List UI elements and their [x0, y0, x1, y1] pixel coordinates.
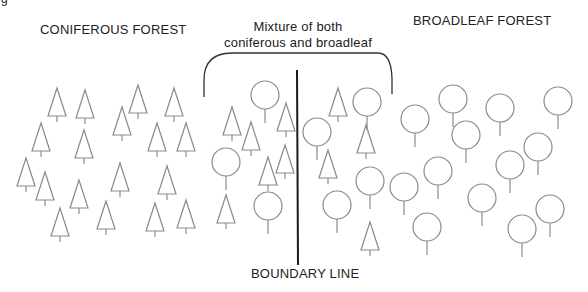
conifer-tree-icon — [113, 107, 131, 141]
conifer-tree-icon — [177, 123, 195, 157]
conifer-tree-icon — [17, 158, 35, 192]
broadleaf-tree-icon — [468, 184, 496, 226]
broadleaf-tree-icon — [452, 121, 480, 163]
broadleaf-tree-icon — [356, 167, 384, 209]
boundary-line — [297, 70, 298, 265]
conifer-tree-icon — [70, 180, 88, 214]
broadleaf-tree-icon — [323, 191, 351, 233]
broadleaf-tree-icon — [212, 148, 240, 190]
broadleaf-tree-icon — [401, 105, 429, 147]
tree-illustration — [0, 0, 588, 292]
conifer-tree-icon — [51, 208, 69, 242]
conifer-tree-icon — [148, 123, 166, 157]
conifer-tree-icon — [158, 166, 176, 200]
conifer-tree-icon — [36, 172, 54, 206]
conifer-tree-icon — [277, 103, 295, 137]
conifer-tree-icon — [32, 123, 50, 157]
conifer-tree-icon — [361, 222, 379, 256]
broadleaf-tree-icon — [251, 81, 279, 123]
conifer-tree-icon — [319, 150, 337, 184]
conifer-tree-icon — [129, 85, 147, 119]
forest-boundary-diagram: g CONIFEROUS FOREST BROADLEAF FOREST Mix… — [0, 0, 588, 292]
conifer-tree-icon — [165, 88, 183, 122]
conifer-tree-icon — [48, 88, 66, 122]
conifer-tree-icon — [223, 107, 241, 141]
broadleaf-tree-icon — [353, 88, 381, 130]
conifer-tree-icon — [76, 90, 94, 124]
conifer-tree-icon — [146, 203, 164, 237]
conifer-tree-icon — [97, 201, 115, 235]
broadleaf-tree-icon — [413, 213, 441, 255]
conifer-tree-icon — [75, 130, 93, 164]
broadleaf-tree-icon — [390, 173, 418, 215]
conifer-tree-icon — [217, 195, 235, 229]
conifer-tree-icon — [177, 200, 195, 234]
conifer-tree-icon — [357, 125, 375, 159]
broadleaf-tree-icon — [486, 94, 514, 136]
conifer-tree-icon — [329, 88, 347, 122]
broadleaf-tree-icon — [254, 192, 282, 234]
conifer-tree-icon — [276, 145, 294, 179]
broadleaf-tree-icon — [424, 157, 452, 199]
broadleaf-tree-icon — [524, 133, 552, 175]
conifer-tree-icon — [111, 163, 129, 197]
broadleaf-tree-icon — [536, 195, 564, 237]
broadleaf-tree-icon — [544, 87, 572, 129]
conifer-tree-icon — [259, 157, 277, 191]
broadleaf-tree-icon — [508, 215, 536, 257]
broadleaf-tree-icon — [439, 85, 467, 127]
conifer-tree-icon — [242, 122, 260, 156]
broadleaf-tree-icon — [496, 151, 524, 193]
